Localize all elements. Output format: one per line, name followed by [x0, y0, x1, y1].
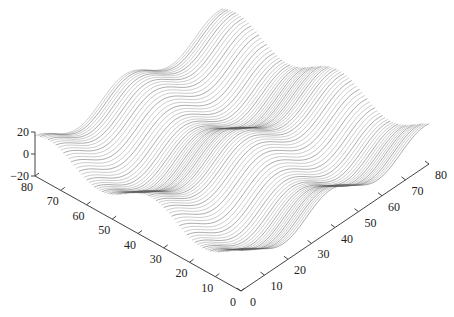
left-tick-label: 0 — [230, 295, 236, 309]
left-tick-label: 10 — [201, 281, 213, 295]
tick-mark — [402, 177, 406, 180]
surface-line — [218, 125, 406, 252]
surface-line — [215, 125, 403, 252]
tick-mark — [241, 288, 245, 291]
surface-line — [79, 44, 267, 171]
tick-mark — [61, 187, 65, 190]
surface-line — [143, 67, 331, 194]
surface-line — [63, 26, 251, 153]
surface-line — [89, 56, 277, 183]
tick-mark — [35, 173, 39, 176]
surface-plot: 01020304050607080 01020304050607080 −200… — [0, 0, 454, 317]
right-tick-label: 10 — [271, 279, 283, 293]
surface-line — [71, 35, 259, 162]
left-tick-label: 70 — [47, 194, 59, 208]
surface-line — [43, 10, 231, 137]
z-tick-label: 0 — [23, 147, 29, 161]
surface-line — [40, 10, 228, 137]
tick-mark — [112, 216, 116, 219]
z-tick-label: −20 — [10, 169, 29, 183]
surface-line — [38, 9, 226, 136]
tick-mark — [87, 202, 91, 205]
right-tick-label: 20 — [294, 263, 306, 277]
right-tick-label: 80 — [435, 168, 447, 182]
right-tick-label: 30 — [318, 247, 330, 261]
tick-mark — [284, 256, 288, 259]
surface-line — [172, 89, 360, 216]
tick-mark — [215, 274, 219, 277]
right-tick-label: 70 — [412, 184, 424, 198]
surface-line — [220, 125, 408, 252]
surface-line — [174, 92, 362, 219]
tick-mark — [355, 209, 359, 212]
tick-mark — [164, 245, 168, 248]
left-tick-label: 60 — [73, 209, 85, 223]
z-tick-label: 20 — [17, 125, 29, 139]
surface-line — [128, 67, 316, 194]
tick-mark — [261, 272, 265, 275]
right-tick-label: 50 — [365, 216, 377, 230]
surface-line — [166, 83, 354, 210]
tick-mark — [378, 193, 382, 196]
tick-mark — [190, 259, 194, 262]
left-tick-label: 50 — [98, 223, 110, 237]
surface-line — [112, 67, 300, 194]
left-tick-label: 20 — [176, 266, 188, 280]
right-tick-label: 40 — [341, 232, 353, 246]
tick-mark — [308, 240, 312, 243]
tick-mark — [138, 231, 142, 234]
tick-mark — [331, 225, 335, 228]
z-axis-ticks: −20020 — [10, 125, 35, 183]
axes — [35, 132, 429, 291]
surface-line — [231, 124, 419, 251]
right-tick-label: 60 — [388, 200, 400, 214]
surface-line — [84, 50, 272, 177]
surface-line — [182, 102, 370, 229]
right-tick-label: 0 — [250, 295, 256, 309]
tick-mark — [425, 161, 429, 164]
surface-line — [208, 123, 396, 250]
left-tick-label: 30 — [150, 252, 162, 266]
surface-line — [61, 23, 249, 150]
surface-line — [115, 68, 303, 195]
left-tick-label: 40 — [124, 238, 136, 252]
